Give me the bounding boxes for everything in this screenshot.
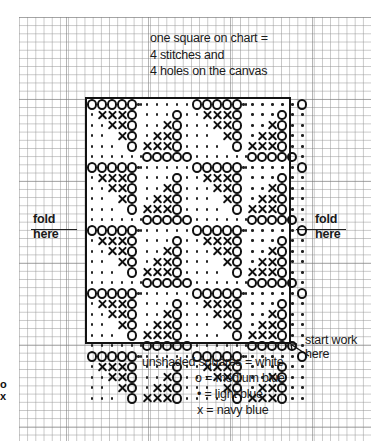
stitch-x-navy-blue bbox=[162, 309, 172, 320]
stitch-o-medium-blue bbox=[192, 162, 202, 173]
stitch-dot-light-blue bbox=[277, 162, 287, 173]
fold-here-left-label: fold here bbox=[33, 212, 59, 242]
stitch-dot-light-blue bbox=[257, 246, 267, 257]
stitch-x-navy-blue bbox=[97, 110, 107, 121]
stitch-dot-light-blue bbox=[287, 194, 297, 205]
stitch-dot-light-blue bbox=[232, 341, 242, 352]
stitch-o-medium-blue bbox=[277, 183, 287, 194]
stitch-o-medium-blue bbox=[117, 225, 127, 236]
stitch-blank-white bbox=[107, 320, 117, 331]
stitch-o-medium-blue bbox=[277, 110, 287, 121]
stitch-o-medium-blue bbox=[172, 141, 182, 152]
stitch-dot-light-blue bbox=[297, 236, 307, 247]
stitch-x-navy-blue bbox=[257, 141, 267, 152]
stitch-o-medium-blue bbox=[127, 183, 137, 194]
stitch-o-medium-blue bbox=[232, 299, 242, 310]
fold-here-right-label: fold here bbox=[315, 212, 341, 242]
stitch-x-navy-blue bbox=[222, 309, 232, 320]
stitch-x-navy-blue bbox=[212, 183, 222, 194]
stitch-o-medium-blue bbox=[277, 267, 287, 278]
stitch-dot-light-blue bbox=[247, 99, 257, 110]
stitch-dot-light-blue bbox=[267, 110, 277, 121]
stitch-dot-light-blue bbox=[232, 215, 242, 226]
scale-note-line-1: one square on chart = bbox=[150, 31, 268, 48]
stitch-x-navy-blue bbox=[247, 204, 257, 215]
stitch-dot-light-blue bbox=[287, 246, 297, 257]
stitch-dot-light-blue bbox=[87, 330, 97, 341]
stitch-x-navy-blue bbox=[267, 246, 277, 257]
stitch-o-medium-blue bbox=[172, 309, 182, 320]
stitch-x-navy-blue bbox=[257, 131, 267, 142]
stitch-dot-light-blue bbox=[287, 225, 297, 236]
scale-note-line-3: 4 holes on the canvas bbox=[150, 64, 268, 81]
legend-x-navy-blue: x = navy blue bbox=[197, 403, 338, 419]
stitch-dot-light-blue bbox=[142, 120, 152, 131]
stitch-x-navy-blue bbox=[212, 299, 222, 310]
stitch-x-navy-blue bbox=[162, 267, 172, 278]
stitch-dot-light-blue bbox=[182, 267, 192, 278]
stitch-o-medium-blue bbox=[127, 372, 137, 383]
stitch-x-navy-blue bbox=[212, 246, 222, 257]
legend-unshaded: unshaded squares = white bbox=[142, 355, 283, 371]
stitch-dot-light-blue bbox=[287, 110, 297, 121]
stitch-o-medium-blue bbox=[212, 99, 222, 110]
stitch-dot-light-blue bbox=[257, 162, 267, 173]
stitch-dot-light-blue bbox=[257, 110, 267, 121]
stitch-x-navy-blue bbox=[222, 257, 232, 268]
stitch-x-navy-blue bbox=[267, 183, 277, 194]
stitch-o-medium-blue bbox=[107, 351, 117, 362]
stitch-dot-light-blue bbox=[87, 341, 97, 352]
stitch-dot-light-blue bbox=[202, 278, 212, 289]
stitch-o-medium-blue bbox=[182, 341, 192, 352]
stitch-dot-light-blue bbox=[97, 141, 107, 152]
stitch-dot-light-blue bbox=[107, 393, 117, 404]
stitch-dot-light-blue bbox=[127, 215, 137, 226]
stitch-x-navy-blue bbox=[162, 183, 172, 194]
stitch-o-medium-blue bbox=[277, 194, 287, 205]
stitch-x-navy-blue bbox=[117, 173, 127, 184]
stitch-dot-light-blue bbox=[202, 120, 212, 131]
stitch-x-navy-blue bbox=[117, 299, 127, 310]
stitch-o-medium-blue bbox=[117, 162, 127, 173]
stitch-dot-light-blue bbox=[267, 225, 277, 236]
stitch-blank-white bbox=[117, 267, 127, 278]
stitch-o-medium-blue bbox=[277, 309, 287, 320]
stitch-o-medium-blue bbox=[222, 99, 232, 110]
stitch-x-navy-blue bbox=[202, 299, 212, 310]
fold-left-word-1: fold bbox=[33, 212, 59, 227]
stitch-o-medium-blue bbox=[232, 267, 242, 278]
stitch-o-medium-blue bbox=[127, 141, 137, 152]
stitch-x-navy-blue bbox=[222, 320, 232, 331]
stitch-dot-light-blue bbox=[297, 204, 307, 215]
stitch-o-medium-blue bbox=[232, 236, 242, 247]
stitch-dot-light-blue bbox=[107, 152, 117, 163]
stitch-o-medium-blue bbox=[127, 162, 137, 173]
stitch-dot-light-blue bbox=[97, 204, 107, 215]
stitch-o-medium-blue bbox=[297, 99, 307, 110]
stitch-dot-light-blue bbox=[152, 162, 162, 173]
stitch-dot-light-blue bbox=[162, 236, 172, 247]
stitch-o-medium-blue bbox=[127, 99, 137, 110]
stitch-dot-light-blue bbox=[87, 173, 97, 184]
stitch-dot-light-blue bbox=[202, 246, 212, 257]
stitch-o-medium-blue bbox=[232, 131, 242, 142]
stitch-dot-light-blue bbox=[142, 194, 152, 205]
stitch-dot-light-blue bbox=[152, 183, 162, 194]
stitch-dot-light-blue bbox=[182, 288, 192, 299]
stitch-o-medium-blue bbox=[257, 278, 267, 289]
stitch-o-medium-blue bbox=[142, 152, 152, 163]
stitch-o-medium-blue bbox=[222, 288, 232, 299]
stitch-x-navy-blue bbox=[117, 309, 127, 320]
stitch-o-medium-blue bbox=[127, 330, 137, 341]
stitch-o-medium-blue bbox=[257, 152, 267, 163]
stitch-o-medium-blue bbox=[87, 162, 97, 173]
stitch-x-navy-blue bbox=[117, 257, 127, 268]
stitch-o-medium-blue bbox=[142, 278, 152, 289]
stitch-x-navy-blue bbox=[162, 131, 172, 142]
stitch-dot-light-blue bbox=[182, 246, 192, 257]
stitch-x-navy-blue bbox=[117, 383, 127, 394]
stitch-x-navy-blue bbox=[152, 320, 162, 331]
stitch-x-navy-blue bbox=[117, 372, 127, 383]
stitch-o-medium-blue bbox=[257, 215, 267, 226]
stitch-o-medium-blue bbox=[172, 246, 182, 257]
